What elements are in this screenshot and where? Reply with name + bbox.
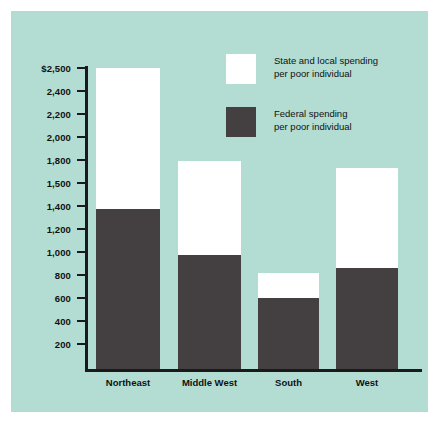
legend-item-federal[interactable]: Federal spending per poor individual: [226, 107, 378, 141]
bar-segment-federal: [96, 209, 160, 369]
y-tick-label: 200: [55, 339, 71, 350]
x-axis-label: Northeast: [106, 377, 150, 388]
bar-segment-federal: [258, 298, 319, 369]
bar-south[interactable]: South: [258, 273, 319, 369]
x-axis-line: [85, 369, 422, 372]
y-tick-mark: [77, 90, 86, 92]
y-tick-label: 1,000: [47, 247, 71, 258]
legend-label-line2: per poor individual: [274, 121, 378, 134]
y-tick-label: 1,400: [47, 201, 71, 212]
bar-west[interactable]: West: [336, 168, 398, 369]
legend-label-line1: State and local spending: [274, 55, 378, 68]
bar-segment-state: [178, 161, 241, 255]
y-tick-mark: [77, 343, 86, 345]
y-tick-label: 2,200: [47, 109, 71, 120]
y-tick-label: 800: [55, 270, 71, 281]
y-tick-mark: [77, 113, 86, 115]
y-tick-mark: [77, 274, 86, 276]
chart-figure: $2,500 2,400 2,200 2,000 1,800 1,500 1,4…: [0, 0, 440, 425]
y-tick-mark: [77, 320, 86, 322]
y-tick-mark: [77, 67, 86, 69]
bar-middle-west[interactable]: Middle West: [178, 161, 241, 369]
bar-segment-state: [258, 273, 319, 298]
y-tick-label: 1,500: [47, 178, 71, 189]
y-tick-label: 2,000: [47, 132, 71, 143]
y-axis-line: [85, 66, 88, 372]
bar-segment-federal: [336, 268, 398, 369]
y-tick-label: $2,500: [41, 63, 71, 74]
x-axis-label: West: [356, 377, 379, 388]
y-tick-mark: [77, 228, 86, 230]
bar-segment-state: [336, 168, 398, 268]
legend-label-line1: Federal spending: [274, 108, 378, 121]
legend-item-state-local[interactable]: State and local spending per poor indivi…: [226, 54, 378, 88]
bar-northeast[interactable]: Northeast: [96, 68, 160, 369]
bar-segment-state: [96, 68, 160, 209]
y-tick-label: 2,400: [47, 86, 71, 97]
y-tick-mark: [77, 297, 86, 299]
y-tick-label: 1,800: [47, 155, 71, 166]
legend-swatch-state-icon: [226, 54, 256, 84]
y-tick-mark: [77, 251, 86, 253]
plot-area: $2,500 2,400 2,200 2,000 1,800 1,500 1,4…: [11, 11, 428, 412]
y-tick-label: 600: [55, 293, 71, 304]
x-axis-label: Middle West: [182, 377, 237, 388]
x-axis-label: South: [275, 377, 302, 388]
y-tick-label: 1,200: [47, 224, 71, 235]
chart-legend: State and local spending per poor indivi…: [226, 54, 378, 160]
y-tick-mark: [77, 136, 86, 138]
bar-segment-federal: [178, 255, 241, 369]
y-tick-label: 400: [55, 316, 71, 327]
y-tick-mark: [77, 205, 86, 207]
y-tick-mark: [77, 182, 86, 184]
y-tick-mark: [77, 159, 86, 161]
legend-swatch-federal-icon: [226, 107, 256, 137]
chart-panel: $2,500 2,400 2,200 2,000 1,800 1,500 1,4…: [11, 11, 428, 412]
legend-label-line2: per poor individual: [274, 68, 378, 81]
